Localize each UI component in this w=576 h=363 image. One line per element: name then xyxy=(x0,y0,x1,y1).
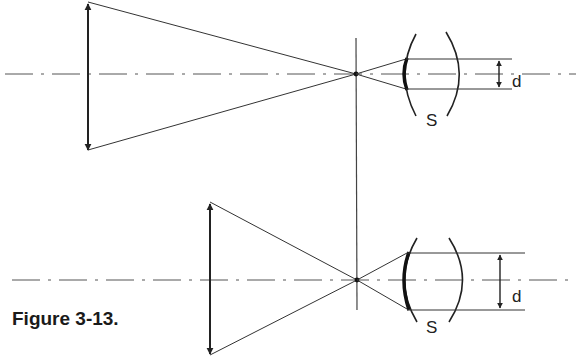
surface-left-arc xyxy=(405,34,416,116)
ray-upper xyxy=(88,2,356,74)
diverging-ray-upper xyxy=(357,253,407,280)
dimension-label: d xyxy=(512,287,521,306)
ray-upper xyxy=(210,202,357,280)
image-plane-line xyxy=(356,38,357,310)
diverging-ray-lower xyxy=(357,280,407,309)
surface-label: S xyxy=(426,111,437,130)
bottom-diagram: d S xyxy=(12,202,576,355)
surface-label: S xyxy=(426,318,437,337)
figure-caption: Figure 3-13. xyxy=(12,308,119,330)
ray-lower xyxy=(88,74,356,150)
diverging-ray-upper xyxy=(356,59,406,74)
surface-highlight xyxy=(404,252,409,310)
ray-lower xyxy=(210,280,357,355)
dimension-label: d xyxy=(512,72,521,91)
diverging-ray-lower xyxy=(356,74,406,89)
top-diagram: d S xyxy=(5,2,576,150)
